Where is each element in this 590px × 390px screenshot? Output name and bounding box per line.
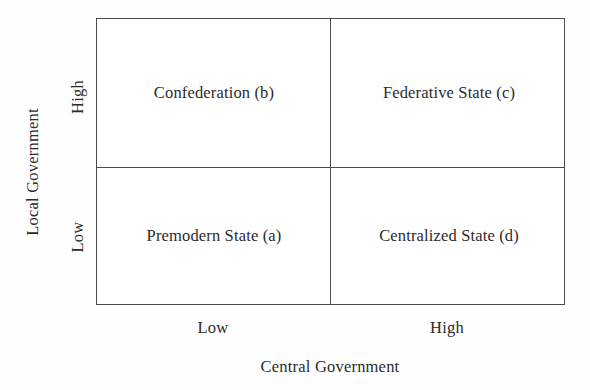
- matrix-plot-area: Confederation (b) Federative State (c) P…: [96, 18, 565, 305]
- x-axis-title: Central Government: [165, 355, 495, 379]
- quadrant-label-confederation: Confederation (b): [154, 84, 274, 102]
- y-axis-tick-low: Low: [65, 202, 91, 272]
- y-axis-title: Local Government: [18, 27, 48, 317]
- quadrant-label-federative-state: Federative State (c): [383, 84, 515, 102]
- x-axis-tick-high: High: [377, 316, 517, 340]
- quadrant-label-premodern-state: Premodern State (a): [147, 227, 282, 245]
- quadrant-label-centralized-state: Centralized State (d): [379, 227, 519, 245]
- quadrant-top-left: Confederation (b): [97, 19, 331, 168]
- x-axis-tick-low: Low: [143, 316, 283, 340]
- y-axis-tick-high: High: [65, 62, 91, 132]
- quadrant-top-right: Federative State (c): [332, 19, 566, 168]
- quadrant-bottom-right: Centralized State (d): [332, 169, 566, 306]
- quadrant-bottom-left: Premodern State (a): [97, 169, 331, 306]
- typology-matrix-diagram: Local Government High Low Confederation …: [0, 0, 590, 390]
